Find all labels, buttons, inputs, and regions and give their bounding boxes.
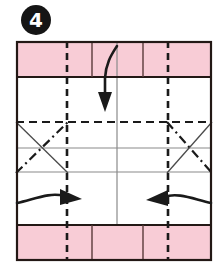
origami-diagram xyxy=(0,0,220,271)
bottom-colored-band xyxy=(16,225,212,261)
origami-step-figure: 4 xyxy=(0,0,220,271)
top-colored-band xyxy=(16,41,212,77)
